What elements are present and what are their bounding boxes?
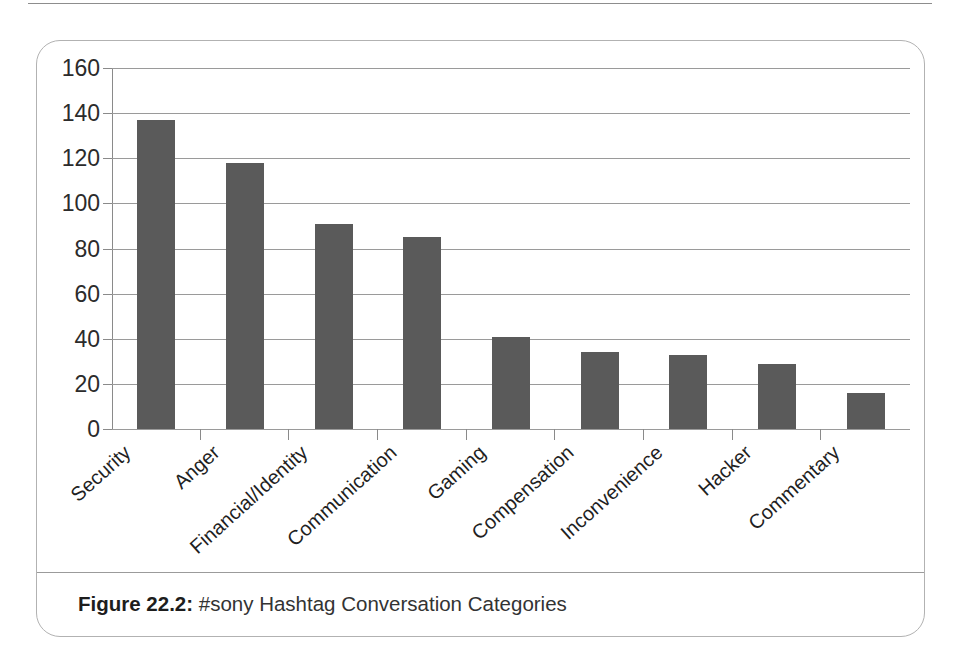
caption-divider bbox=[37, 572, 924, 573]
y-axis-tick bbox=[103, 203, 112, 204]
y-axis-tick bbox=[103, 384, 112, 385]
y-axis-tick bbox=[103, 113, 112, 114]
y-axis-tick-label: 100 bbox=[62, 190, 100, 217]
y-axis-tick bbox=[103, 68, 112, 69]
y-axis-tick bbox=[103, 339, 112, 340]
x-axis-labels: SecurityAngerFinancial/IdentityCommunica… bbox=[112, 437, 910, 557]
bar bbox=[669, 355, 707, 429]
bar bbox=[315, 224, 353, 429]
y-axis-tick-label: 80 bbox=[74, 235, 100, 262]
bar-slot bbox=[289, 68, 378, 429]
figure-caption-label: Figure 22.2: bbox=[78, 592, 193, 615]
bar-slot bbox=[467, 68, 556, 429]
figure-caption-text: #sony Hashtag Conversation Categories bbox=[193, 592, 567, 615]
bar-chart: 020406080100120140160 SecurityAngerFinan… bbox=[0, 0, 960, 657]
plot-area: 020406080100120140160 bbox=[112, 68, 910, 429]
bar bbox=[492, 337, 530, 430]
bar-slot bbox=[112, 68, 201, 429]
bar bbox=[137, 120, 175, 429]
bar bbox=[581, 352, 619, 429]
bar-slot bbox=[201, 68, 290, 429]
y-axis-tick-label: 40 bbox=[74, 325, 100, 352]
y-axis-tick bbox=[103, 158, 112, 159]
x-axis-label-cell: Commentary bbox=[821, 437, 910, 557]
y-axis-tick-label: 0 bbox=[87, 416, 100, 443]
y-axis-tick-label: 20 bbox=[74, 370, 100, 397]
x-axis-label-cell: Inconvenience bbox=[644, 437, 733, 557]
x-axis-label-cell: Communication bbox=[378, 437, 467, 557]
y-axis-tick-label: 140 bbox=[62, 100, 100, 127]
y-axis-tick bbox=[103, 294, 112, 295]
x-axis-category-label: Security bbox=[66, 441, 135, 506]
figure-caption: Figure 22.2: #sony Hashtag Conversation … bbox=[78, 586, 878, 622]
y-axis-tick-label: 120 bbox=[62, 145, 100, 172]
bar-series bbox=[112, 68, 910, 429]
bar-slot bbox=[733, 68, 822, 429]
bar bbox=[758, 364, 796, 429]
bar-slot bbox=[378, 68, 467, 429]
bar bbox=[226, 163, 264, 429]
bar-slot bbox=[644, 68, 733, 429]
y-axis-tick bbox=[103, 429, 112, 430]
bar-slot bbox=[555, 68, 644, 429]
y-axis-tick-label: 160 bbox=[62, 55, 100, 82]
y-axis-tick bbox=[103, 249, 112, 250]
bar bbox=[403, 237, 441, 429]
bar-slot bbox=[821, 68, 910, 429]
bar bbox=[847, 393, 885, 429]
y-axis-tick-label: 60 bbox=[74, 280, 100, 307]
